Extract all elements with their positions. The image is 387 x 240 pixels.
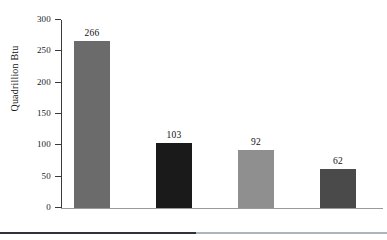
bar-industrial[interactable] xyxy=(74,41,110,208)
bar-chart-figure: Quadrillion Btu 0 50 100 150 200 250 300… xyxy=(0,0,387,240)
y-tick-label: 0 xyxy=(0,201,51,213)
plot-area: 266 Industrial 103 Transportation 92 Res… xyxy=(61,20,379,208)
bar-value-label: 103 xyxy=(167,130,182,140)
bar-value-label: 62 xyxy=(333,156,343,166)
bar-value-label: 92 xyxy=(251,137,261,147)
y-tick-label: 250 xyxy=(0,44,51,56)
y-tick-label: 50 xyxy=(0,170,51,182)
footer-spacer xyxy=(0,234,387,240)
y-tick-label: 300 xyxy=(0,13,51,25)
y-tick-label: 100 xyxy=(0,138,51,150)
bar-transportation[interactable] xyxy=(156,143,192,208)
bar-commercial[interactable] xyxy=(320,169,356,208)
bar-residential[interactable] xyxy=(238,150,274,208)
y-tick-label: 150 xyxy=(0,107,51,119)
y-tick-label: 200 xyxy=(0,76,51,88)
bar-value-label: 266 xyxy=(85,28,100,38)
x-axis-baseline xyxy=(61,208,383,209)
